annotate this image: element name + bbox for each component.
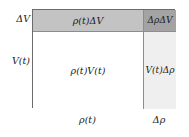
cell-rho-delta-v-label: ρ(t)ΔV bbox=[73, 16, 104, 26]
cell-delta-rho-delta-v-label: ΔρΔV bbox=[148, 16, 173, 25]
cell-rho-v-label: ρ(t)V(t) bbox=[71, 66, 106, 76]
axis-label-delta-v: ΔV bbox=[2, 14, 30, 24]
cell-v-delta-rho: V(t)Δρ bbox=[144, 32, 176, 109]
axis-label-rho-t: ρ(t) bbox=[32, 115, 143, 125]
axis-label-v-t: V(t) bbox=[2, 56, 30, 66]
cell-delta-rho-delta-v: ΔρΔV bbox=[144, 10, 176, 32]
cell-v-delta-rho-label: V(t)Δρ bbox=[146, 66, 175, 75]
area-model-box: ρ(t)ΔV ΔρΔV ρ(t)V(t) V(t)Δρ bbox=[32, 9, 175, 108]
cell-rho-delta-v: ρ(t)ΔV bbox=[33, 10, 144, 32]
axis-label-delta-rho: Δρ bbox=[143, 115, 175, 125]
cell-rho-v: ρ(t)V(t) bbox=[33, 32, 144, 109]
figure-canvas: ρ(t)ΔV ΔρΔV ρ(t)V(t) V(t)Δρ ΔV V(t) ρ(t)… bbox=[0, 0, 189, 137]
